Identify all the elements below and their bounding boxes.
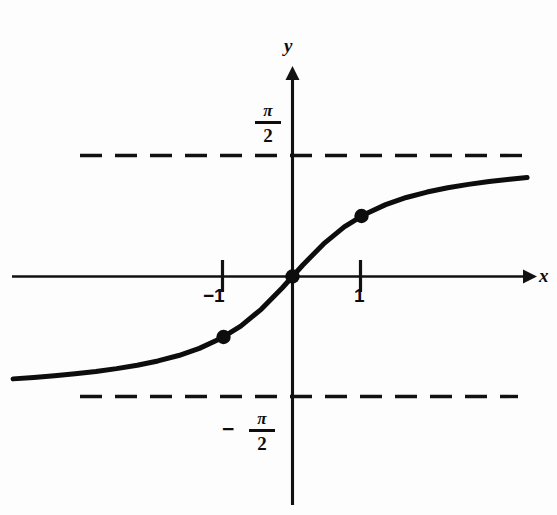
y-axis-arrowhead xyxy=(286,66,300,80)
fraction-bar-icon xyxy=(255,121,281,124)
asymptote-upper-denominator: 2 xyxy=(255,125,281,145)
x-axis-arrowhead xyxy=(523,270,537,284)
curve-point-marker xyxy=(216,330,230,344)
y-axis-label: y xyxy=(284,36,292,55)
x-axis-label: x xyxy=(539,266,549,285)
fraction-bar-icon xyxy=(249,429,275,432)
asymptote-lower-label: π 2 xyxy=(249,410,275,453)
asymptote-lower-minus-sign: − xyxy=(222,418,234,439)
asymptote-lower-denominator: 2 xyxy=(249,433,275,453)
asymptote-upper-numerator: π xyxy=(255,102,281,120)
plot-canvas xyxy=(0,0,557,515)
asymptote-lower-numerator: π xyxy=(249,410,275,428)
curve-point-marker xyxy=(285,269,299,283)
x-axis xyxy=(12,270,537,284)
asymptote-upper-label: π 2 xyxy=(255,102,281,145)
arctangent-graph-figure: y x −1 1 π 2 − π 2 xyxy=(0,0,557,515)
x-tick-label-minus-one: −1 xyxy=(203,286,225,305)
x-tick-label-one: 1 xyxy=(354,286,365,305)
arctan-curve xyxy=(13,178,527,379)
curve-point-marker xyxy=(354,209,368,223)
